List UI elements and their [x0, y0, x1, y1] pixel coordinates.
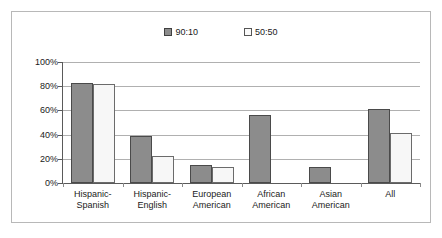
x-tick-mark [242, 183, 243, 187]
bar [130, 136, 152, 183]
y-axis-labels: 100% 80% 60% 40% 20% 0% [14, 0, 58, 238]
y-tick-mark-40 [58, 135, 62, 136]
y-tick-label-40: 40% [18, 131, 58, 140]
x-axis-label: Hispanic-English [123, 189, 183, 211]
x-tick-mark [420, 183, 421, 187]
bar [71, 83, 93, 183]
bar-group [361, 62, 421, 183]
bar-group [63, 62, 123, 183]
filled-gray-square-icon [164, 28, 172, 36]
chart-legend: 90:10 50:50 [0, 25, 442, 39]
bar [152, 156, 174, 183]
legend-entry-50-50: 50:50 [244, 27, 278, 37]
y-tick-mark-60 [58, 110, 62, 111]
x-tick-mark [301, 183, 302, 187]
x-axis-label: AsianAmerican [301, 189, 361, 211]
bar [249, 115, 271, 183]
x-axis-labels: Hispanic-SpanishHispanic-EnglishEuropean… [63, 189, 420, 211]
y-tick-label-20: 20% [18, 155, 58, 164]
y-tick-mark-0 [58, 183, 62, 184]
x-axis-label: All [361, 189, 421, 211]
bar [309, 167, 331, 183]
legend-entry-90-10: 90:10 [164, 27, 198, 37]
bar-group [182, 62, 242, 183]
bar [93, 84, 115, 183]
y-tick-mark-80 [58, 86, 62, 87]
x-tick-mark [182, 183, 183, 187]
x-tick-mark [63, 183, 64, 187]
y-tick-label-100: 100% [18, 58, 58, 67]
open-white-square-icon [244, 28, 252, 36]
y-tick-label-80: 80% [18, 82, 58, 91]
x-axis-label: AfricanAmerican [242, 189, 302, 211]
x-tick-mark [123, 183, 124, 187]
x-tick-mark [361, 183, 362, 187]
x-axis-label: Hispanic-Spanish [63, 189, 123, 211]
legend-label-50-50: 50:50 [255, 27, 278, 37]
y-tick-label-60: 60% [18, 106, 58, 115]
y-tick-mark-20 [58, 159, 62, 160]
bar [390, 133, 412, 183]
legend-label-90-10: 90:10 [175, 27, 198, 37]
bar-group [123, 62, 183, 183]
x-axis-label: EuropeanAmerican [182, 189, 242, 211]
bar [212, 167, 234, 183]
y-tick-label-0: 0% [18, 179, 58, 188]
bar [368, 109, 390, 183]
chart-figure: 90:10 50:50 100% 80% 60% 40% 20% 0% Hisp… [0, 0, 442, 238]
y-tick-mark-100 [58, 62, 62, 63]
bar-groups [63, 62, 420, 183]
bar-group [242, 62, 302, 183]
bar-group [301, 62, 361, 183]
bar [190, 165, 212, 183]
